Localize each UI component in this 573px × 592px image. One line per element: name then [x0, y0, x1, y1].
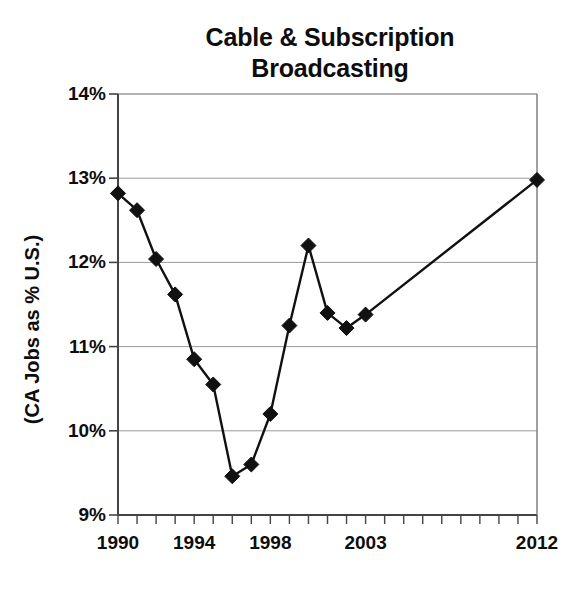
y-tick-label: 12% [48, 251, 106, 273]
x-tick-label: 2012 [502, 532, 572, 554]
data-point [263, 406, 278, 421]
y-tick-marks [109, 94, 118, 515]
x-tick-marks [118, 515, 537, 524]
x-tick-label: 1998 [235, 532, 305, 554]
y-tick-label: 11% [48, 336, 106, 358]
y-tick-label: 13% [48, 167, 106, 189]
data-point [225, 469, 240, 484]
y-tick-label: 9% [48, 504, 106, 526]
data-line [118, 180, 537, 476]
axis-lines [118, 94, 537, 515]
x-tick-label: 1990 [83, 532, 153, 554]
x-tick-label: 2003 [331, 532, 401, 554]
data-point [301, 238, 316, 253]
x-tick-label: 1994 [159, 532, 229, 554]
data-point [149, 252, 164, 267]
data-point [282, 318, 297, 333]
y-tick-label: 14% [48, 83, 106, 105]
gridlines [118, 94, 537, 431]
y-tick-label: 10% [48, 420, 106, 442]
plot-area: 14%13%12%11%10%9% 19901994199820032012 [0, 0, 573, 592]
chart-page: Cable & Subscription Broadcasting (CA Jo… [0, 0, 573, 592]
data-markers [111, 172, 545, 483]
data-point [244, 457, 259, 472]
data-point [168, 287, 183, 302]
